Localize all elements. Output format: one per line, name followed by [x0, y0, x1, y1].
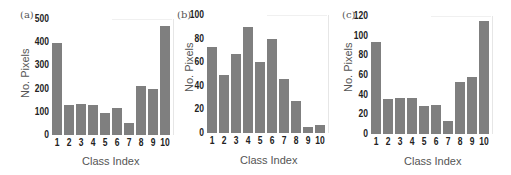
plot-frame-top	[112, 19, 172, 20]
bar-class-10	[160, 26, 170, 135]
y-tick-label: 0	[185, 128, 204, 138]
x-tick-label: 4	[406, 137, 418, 147]
plot-frame-right	[328, 15, 329, 133]
bar-class-1	[371, 42, 381, 134]
bar-class-6	[431, 105, 441, 135]
x-tick-label: 9	[302, 136, 314, 146]
bar-class-2	[64, 105, 74, 135]
x-tick-label: 2	[382, 137, 394, 147]
x-tick-label: 5	[99, 138, 111, 148]
bar-class-5	[255, 62, 265, 133]
x-tick-label: 8	[135, 138, 147, 148]
bar-class-3	[395, 98, 405, 134]
x-tick-label: 4	[242, 136, 254, 146]
y-tick-label: 100	[30, 107, 49, 117]
y-tick-label: 60	[185, 57, 204, 67]
y-tick-label: 40	[349, 90, 368, 100]
chart-panel-a: (a) No. Pixels 0100200300400500 12345678…	[0, 0, 170, 175]
bar-class-6	[267, 39, 277, 133]
x-tick-label: 7	[442, 137, 454, 147]
x-tick-label: 6	[430, 137, 442, 147]
plot-area-b	[207, 15, 329, 133]
plot-area-a	[52, 19, 162, 135]
bar-class-2	[383, 99, 393, 134]
bar-class-7	[443, 121, 453, 134]
bar-class-10	[479, 21, 489, 134]
x-tick-label: 6	[266, 136, 278, 146]
y-axis-label-a: No. Pixels	[19, 48, 31, 98]
y-tick-label: 20	[185, 104, 204, 114]
x-tick-label: 3	[75, 138, 87, 148]
bar-class-8	[136, 86, 146, 135]
x-tick-label: 1	[370, 137, 382, 147]
bar-class-5	[100, 113, 110, 135]
x-tick-label: 3	[394, 137, 406, 147]
y-tick-label: 0	[30, 130, 49, 140]
y-tick-label: 400	[30, 37, 49, 47]
y-tick-label: 80	[349, 50, 368, 60]
chart-panel-c: (c) No. Pixels 020406080100120 123456789…	[340, 0, 511, 175]
bar-class-7	[279, 79, 289, 133]
x-tick-label: 2	[218, 136, 230, 146]
plot-frame-right	[492, 16, 493, 134]
x-tick-label: 8	[454, 137, 466, 147]
y-tick-label: 0	[349, 129, 368, 139]
y-tick-label: 200	[30, 84, 49, 94]
x-tick-label: 5	[254, 136, 266, 146]
bar-class-3	[231, 54, 241, 133]
bar-class-1	[207, 47, 217, 133]
plot-frame-top	[267, 15, 327, 16]
plot-frame-top	[431, 16, 491, 17]
x-tick-label: 7	[123, 138, 135, 148]
bar-class-4	[88, 105, 98, 135]
y-tick-label: 120	[349, 11, 368, 21]
bar-class-5	[419, 106, 429, 134]
y-tick-label: 500	[30, 14, 49, 24]
y-tick-label: 100	[349, 31, 368, 41]
y-tick-label: 300	[30, 60, 49, 70]
chart-panel-b: (b) No. Pixels 020406080100 12345678910 …	[170, 0, 340, 175]
bar-class-9	[148, 89, 158, 135]
bar-class-7	[124, 123, 134, 135]
x-tick-label: 1	[51, 138, 63, 148]
plot-area-c	[371, 16, 493, 134]
x-tick-label: 2	[63, 138, 75, 148]
bar-class-9	[467, 77, 477, 134]
x-tick-label: 8	[290, 136, 302, 146]
x-tick-label: 9	[466, 137, 478, 147]
x-axis-label-a: Class Index	[82, 155, 139, 167]
bar-class-10	[315, 125, 325, 133]
x-tick-label: 5	[418, 137, 430, 147]
bar-class-8	[455, 82, 465, 134]
x-tick-label: 10	[478, 137, 490, 147]
x-tick-label: 3	[230, 136, 242, 146]
bar-class-8	[291, 101, 301, 133]
x-tick-label: 7	[278, 136, 290, 146]
x-tick-label: 1	[206, 136, 218, 146]
y-tick-label: 40	[185, 81, 204, 91]
x-tick-label: 6	[111, 138, 123, 148]
x-axis-label-c: Class Index	[404, 155, 461, 167]
y-tick-label: 20	[349, 109, 368, 119]
x-tick-label: 4	[87, 138, 99, 148]
x-axis-label-b: Class Index	[240, 154, 297, 166]
bar-class-2	[219, 75, 229, 133]
bar-class-3	[76, 104, 86, 135]
bar-class-4	[243, 27, 253, 133]
y-tick-label: 100	[185, 10, 204, 20]
x-tick-label: 9	[147, 138, 159, 148]
bar-class-1	[52, 43, 62, 135]
y-tick-label: 80	[185, 34, 204, 44]
x-tick-label: 10	[314, 136, 326, 146]
bar-class-9	[303, 127, 313, 133]
bar-class-4	[407, 98, 417, 134]
bar-class-6	[112, 108, 122, 135]
y-tick-label: 60	[349, 70, 368, 80]
